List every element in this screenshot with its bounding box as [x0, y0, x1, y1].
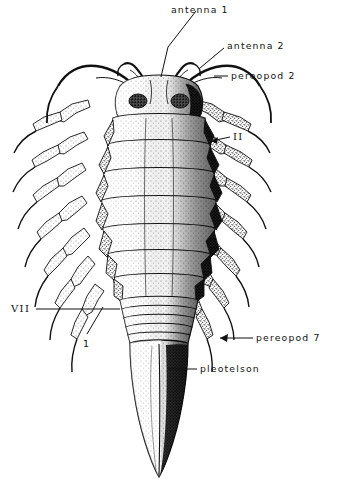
- label-pleotelson: pleotelson: [200, 363, 260, 374]
- label-pereopod-2: pereopod 2: [231, 70, 296, 81]
- compound-eye-right: [171, 94, 189, 108]
- label-antenna-1: antenna 1: [171, 4, 229, 15]
- pleon: [120, 296, 198, 346]
- label-pleon-1: 1: [83, 338, 89, 349]
- label-pereopod-7: pereopod 7: [256, 332, 321, 343]
- illustration-canvas: antenna 1 antenna 2 pereopod 2 II VII 1 …: [0, 0, 341, 484]
- label-segment-ii: II: [233, 131, 244, 142]
- label-antenna-2: antenna 2: [227, 40, 285, 51]
- compound-eye-left: [129, 94, 147, 108]
- pereon: [102, 114, 216, 305]
- label-segment-vii: VII: [11, 303, 30, 314]
